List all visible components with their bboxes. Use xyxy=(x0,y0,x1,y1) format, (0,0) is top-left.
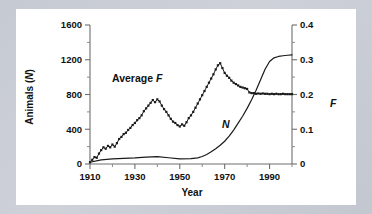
series-marker-average-f xyxy=(183,125,185,127)
series-marker-average-f xyxy=(93,156,95,158)
series-marker-average-f xyxy=(212,73,214,75)
series-marker-average-f xyxy=(116,142,118,144)
series-marker-average-f xyxy=(147,105,149,107)
series-marker-average-f xyxy=(188,117,190,119)
series-marker-average-f xyxy=(246,88,248,90)
series-marker-average-f xyxy=(277,93,279,95)
series-marker-average-f xyxy=(235,83,237,85)
series-marker-average-f xyxy=(165,111,167,113)
series-marker-average-f xyxy=(181,123,183,125)
series-marker-average-f xyxy=(127,129,129,131)
series-marker-average-f xyxy=(163,108,165,110)
series-label-average-f: Average F xyxy=(112,72,163,84)
series-marker-average-f xyxy=(239,86,241,88)
series-marker-average-f xyxy=(141,114,143,116)
series-marker-average-f xyxy=(273,93,275,95)
series-marker-average-f xyxy=(96,157,98,159)
series-marker-average-f xyxy=(138,117,140,119)
right-axis-tick-label: 0 xyxy=(300,158,305,169)
series-marker-average-f xyxy=(284,93,286,95)
series-marker-average-f xyxy=(291,93,293,95)
series-marker-average-f xyxy=(102,146,104,148)
right-axis-tick-label: 0.4 xyxy=(300,19,314,30)
series-marker-average-f xyxy=(152,99,154,101)
series-marker-average-f xyxy=(172,121,174,123)
series-marker-average-f xyxy=(98,152,100,154)
series-marker-average-f xyxy=(228,77,230,79)
series-marker-average-f xyxy=(132,124,134,126)
series-marker-average-f xyxy=(215,68,217,70)
series-marker-average-f xyxy=(226,75,228,77)
series-marker-average-f xyxy=(208,82,210,84)
left-axis-tick-label: 1600 xyxy=(61,19,82,30)
x-axis-tick-label: 1950 xyxy=(169,171,190,182)
series-marker-average-f xyxy=(100,149,102,151)
series-marker-average-f xyxy=(145,107,147,109)
x-axis-title: Year xyxy=(181,187,202,198)
series-marker-average-f xyxy=(203,90,205,92)
right-axis-tick-label: 0.2 xyxy=(300,89,313,100)
series-marker-average-f xyxy=(289,93,291,95)
series-marker-average-f xyxy=(244,87,246,89)
left-axis-tick-label: 800 xyxy=(66,89,82,100)
series-marker-average-f xyxy=(242,86,244,88)
left-axis-tick-label: 0 xyxy=(77,158,82,169)
series-marker-average-f xyxy=(136,119,138,121)
series-marker-average-f xyxy=(233,82,235,84)
series-marker-average-f xyxy=(185,121,187,123)
series-marker-average-f xyxy=(206,86,208,88)
series-marker-average-f xyxy=(156,98,158,100)
series-marker-average-f xyxy=(167,114,169,116)
series-marker-average-f xyxy=(179,125,181,127)
series-marker-average-f xyxy=(237,84,239,86)
series-marker-average-f xyxy=(111,143,113,145)
series-marker-average-f xyxy=(286,93,288,95)
series-marker-average-f xyxy=(176,124,178,126)
series-line-n xyxy=(90,55,292,162)
series-marker-average-f xyxy=(154,101,156,103)
series-marker-average-f xyxy=(170,118,172,120)
series-marker-average-f xyxy=(129,127,131,129)
x-axis-tick-label: 1990 xyxy=(259,171,280,182)
series-marker-average-f xyxy=(230,80,232,82)
series-marker-average-f xyxy=(280,93,282,95)
series-marker-average-f xyxy=(219,62,221,64)
series-marker-average-f xyxy=(271,93,273,95)
series-marker-average-f xyxy=(262,92,264,94)
series-marker-average-f xyxy=(143,110,145,112)
left-axis-tick-label: 400 xyxy=(66,124,82,135)
series-marker-average-f xyxy=(134,122,136,124)
series-marker-average-f xyxy=(259,93,261,95)
series-marker-average-f xyxy=(120,136,122,138)
right-axis-title: F xyxy=(330,97,337,109)
series-marker-average-f xyxy=(282,93,284,95)
series-marker-average-f xyxy=(174,122,176,124)
series-marker-average-f xyxy=(199,98,201,100)
series-marker-average-f xyxy=(264,93,266,95)
chart-plot-area: 04008001200160000.10.20.30.4191019301950… xyxy=(0,0,372,214)
series-marker-average-f xyxy=(114,146,116,148)
series-marker-average-f xyxy=(123,133,125,135)
series-marker-average-f xyxy=(105,148,107,150)
series-marker-average-f xyxy=(158,100,160,102)
series-marker-average-f xyxy=(150,102,152,104)
right-axis-tick-label: 0.3 xyxy=(300,54,313,65)
series-marker-average-f xyxy=(217,64,219,66)
x-axis-tick-label: 1970 xyxy=(214,171,235,182)
figure-root: 04008001200160000.10.20.30.4191019301950… xyxy=(0,0,372,214)
series-marker-average-f xyxy=(224,72,226,74)
series-marker-average-f xyxy=(125,132,127,134)
series-marker-average-f xyxy=(161,105,163,107)
series-marker-average-f xyxy=(91,159,93,161)
series-marker-average-f xyxy=(118,138,120,140)
series-marker-average-f xyxy=(268,93,270,95)
series-label-n: N xyxy=(222,118,230,130)
series-marker-average-f xyxy=(275,93,277,95)
series-marker-average-f xyxy=(221,67,223,69)
x-axis-tick-label: 1930 xyxy=(124,171,145,182)
series-marker-average-f xyxy=(107,145,109,147)
series-marker-average-f xyxy=(210,77,212,79)
series-marker-average-f xyxy=(109,146,111,148)
series-marker-average-f xyxy=(251,92,253,94)
right-axis-tick-label: 0.1 xyxy=(300,124,314,135)
